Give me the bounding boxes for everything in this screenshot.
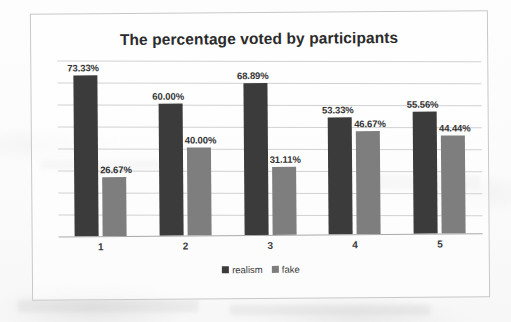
chart-title: The percentage voted by participants (30, 28, 488, 50)
bar-fake-1[interactable] (102, 177, 126, 236)
x-axis-tick-3: 3 (244, 240, 296, 251)
bar-value-label: 40.00% (185, 134, 217, 145)
legend-item-realism[interactable]: realism (222, 264, 263, 275)
bar-value-label: 73.33% (67, 62, 99, 73)
x-axis-tick-1: 1 (75, 241, 127, 252)
x-axis-labels: 12345 (59, 238, 483, 257)
x-axis-tick-2: 2 (159, 240, 211, 251)
bar-fake-2[interactable] (187, 147, 212, 235)
chart-legend[interactable]: realismfake (32, 262, 490, 277)
bar-fake-4[interactable] (356, 131, 381, 234)
bar-group: 53.33%46.67% (328, 58, 381, 234)
bar-group: 60.00%40.00% (158, 59, 211, 235)
bar-realism-4[interactable] (328, 117, 353, 234)
bars-layer[interactable]: 73.33%26.67%60.00%40.00%68.89%31.11%53.3… (57, 57, 481, 60)
bar-value-label: 53.33% (322, 104, 354, 115)
bar-value-label: 60.00% (152, 91, 184, 102)
bar-realism-3[interactable] (243, 83, 268, 235)
bar-value-label: 46.67% (354, 118, 386, 129)
legend-label: realism (232, 264, 263, 275)
bar-group: 73.33%26.67% (73, 60, 126, 236)
bar-realism-2[interactable] (158, 104, 183, 236)
legend-swatch-icon (272, 266, 279, 273)
bar-value-label: 55.56% (407, 98, 439, 109)
bar-realism-1[interactable] (73, 75, 98, 236)
bar-realism-5[interactable] (413, 111, 438, 233)
x-axis-tick-5: 5 (414, 238, 466, 249)
legend-item-fake[interactable]: fake (272, 264, 300, 275)
bar-fake-3[interactable] (272, 166, 297, 235)
plot-area: 73.33%26.67%60.00%40.00%68.89%31.11%53.3… (57, 57, 482, 236)
legend-label: fake (282, 264, 300, 275)
bar-fake-5[interactable] (441, 136, 466, 234)
bar-value-label: 31.11% (270, 153, 301, 164)
legend-swatch-icon (222, 266, 229, 273)
bar-value-label: 44.44% (439, 123, 471, 134)
bar-value-label: 26.67% (100, 164, 132, 175)
chart-container[interactable]: The percentage voted by participants 73.… (30, 10, 490, 301)
bar-group: 68.89%31.11% (243, 59, 296, 235)
x-axis-tick-4: 4 (329, 239, 381, 250)
bar-group: 55.56%44.44% (412, 57, 465, 233)
bar-value-label: 68.89% (237, 70, 269, 81)
